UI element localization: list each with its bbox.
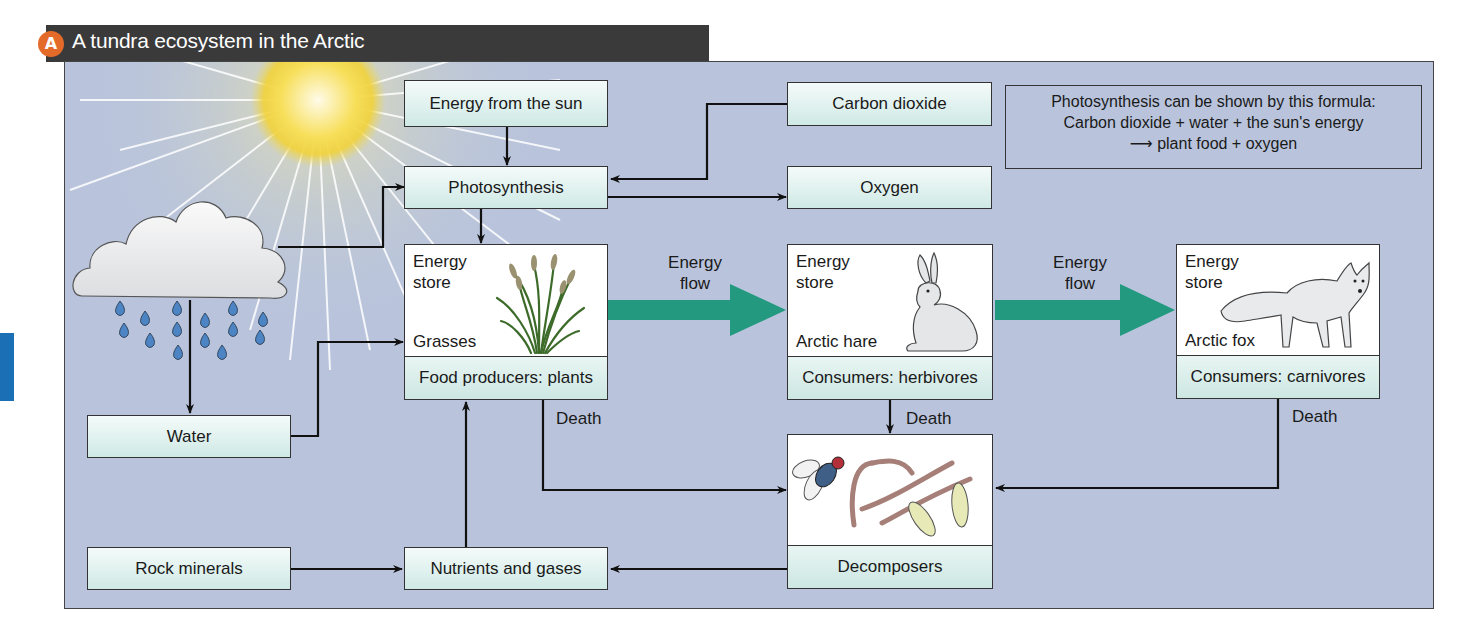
formula-line-2: Carbon dioxide + water + the sun's energ… bbox=[1006, 112, 1421, 133]
producers-card: Energy store Grasses Food producers: pla… bbox=[404, 244, 608, 400]
formula-line-1: Photosynthesis can be shown by this form… bbox=[1006, 91, 1421, 112]
herbivores-card: Energy store Arctic hare Consumers: herb… bbox=[787, 244, 993, 400]
arrow-right-icon: ⟶ bbox=[1130, 134, 1153, 153]
rock-minerals-box: Rock minerals bbox=[87, 547, 291, 590]
decomposers-card: Decomposers bbox=[787, 434, 993, 589]
decomposers-icon bbox=[792, 439, 988, 543]
energy-store-label: Energy store bbox=[796, 251, 850, 293]
carbon-dioxide-box: Carbon dioxide bbox=[787, 82, 992, 126]
photosynthesis-box: Photosynthesis bbox=[404, 166, 608, 209]
death-label-carnivores: Death bbox=[1292, 406, 1337, 427]
energy-flow-label-1: Energy flow bbox=[660, 252, 730, 294]
trophic-level-label: Decomposers bbox=[788, 545, 992, 588]
arrow-water-to-producers bbox=[290, 342, 403, 436]
organism-name: Grasses bbox=[413, 332, 476, 352]
formula-box: Photosynthesis can be shown by this form… bbox=[1005, 85, 1422, 169]
formula-line-3: ⟶ plant food + oxygen bbox=[1006, 133, 1421, 154]
death-label-herbivores: Death bbox=[906, 408, 951, 429]
arrow-co2-to-photosynthesis bbox=[611, 104, 788, 179]
nutrients-and-gases-box: Nutrients and gases bbox=[404, 547, 608, 590]
energy-from-sun-box: Energy from the sun bbox=[404, 80, 608, 127]
energy-store-label: Energy store bbox=[413, 251, 467, 293]
carnivores-card: Energy store Arctic fox Consumers: carni… bbox=[1176, 244, 1380, 399]
diagram-title: A tundra ecosystem in the Arctic bbox=[72, 29, 364, 53]
arrow-cloud-to-photosynthesis bbox=[278, 187, 404, 247]
oxygen-box: Oxygen bbox=[787, 166, 992, 209]
fox-icon bbox=[1217, 251, 1379, 355]
larva-icon bbox=[904, 482, 970, 540]
trophic-level-label: Consumers: herbivores bbox=[788, 356, 992, 399]
trophic-level-label: Consumers: carnivores bbox=[1177, 355, 1379, 398]
energy-flow-label-2: Energy flow bbox=[1045, 252, 1115, 294]
death-label-plants: Death bbox=[556, 408, 601, 429]
organism-name: Arctic hare bbox=[796, 332, 877, 352]
water-box: Water bbox=[87, 415, 291, 458]
arrow-carnivores-death-to-decomposers bbox=[996, 398, 1278, 488]
trophic-level-label: Food producers: plants bbox=[405, 356, 607, 399]
fly-icon bbox=[792, 457, 844, 503]
grass-icon bbox=[489, 253, 589, 355]
hare-icon bbox=[898, 251, 988, 355]
section-badge: A bbox=[38, 31, 64, 57]
